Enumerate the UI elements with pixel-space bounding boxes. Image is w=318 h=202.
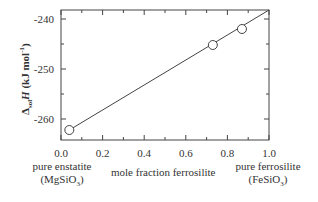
x-tick-label: 0.8 (221, 147, 235, 159)
y-tick-label: -260 (34, 113, 55, 125)
x-tick-label: 0.4 (137, 147, 151, 159)
data-point-marker (208, 41, 217, 50)
y-tick-label: -250 (34, 63, 55, 75)
data-point-marker (237, 25, 246, 34)
y-axis-label: ΔsolH (kJ mol-1) (18, 43, 34, 115)
x-tick-label: 0.6 (179, 147, 193, 159)
y-axis-ticks: -240-250-260 (34, 13, 269, 125)
right-end-label: pure ferrosilite (FeSiO3) (222, 160, 314, 191)
y-tick-label: -240 (34, 13, 55, 25)
left-end-label: pure enstatite (MgSiO3) (22, 160, 102, 191)
x-tick-label: 0.0 (54, 147, 68, 159)
x-axis-label: mole fraction ferrosilite (111, 166, 215, 178)
data-series (65, 10, 269, 135)
data-point-marker (65, 126, 74, 135)
x-tick-label: 0.2 (96, 147, 110, 159)
x-tick-label: 1.0 (262, 147, 276, 159)
